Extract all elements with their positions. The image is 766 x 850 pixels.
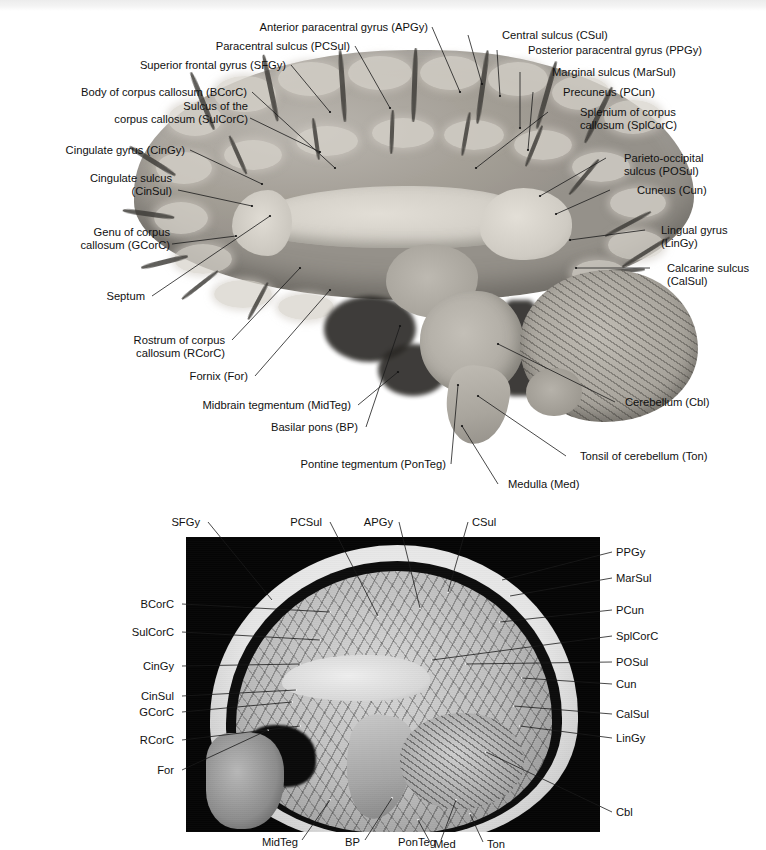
label-panel-a-BP: Basilar pons (BP)	[233, 421, 358, 434]
leader-Cbl	[600, 806, 612, 812]
leader-SFGy	[208, 522, 220, 537]
leader-CalSul	[600, 713, 612, 714]
label-panel-a-LinGy: Lingual gyrus (LinGy)	[661, 224, 766, 249]
label-panel-a-BCorC: Body of corpus callosum (BCorC)	[47, 86, 247, 99]
leader-PCun	[600, 610, 612, 611]
label-panel-b-MidTeg: MidTeg	[240, 836, 298, 849]
label-panel-a-CinSul: Cingulate sulcus (CinSul)	[22, 172, 172, 197]
label-panel-b-APGy: APGy	[345, 516, 393, 529]
label-panel-b-Ton: Ton	[487, 838, 527, 850]
label-panel-b-PPGy: PPGy	[616, 546, 666, 559]
label-panel-b-POSul: POSul	[616, 656, 668, 669]
label-panel-a-Septum: Septum	[45, 290, 145, 303]
label-panel-b-CalSul: CalSul	[616, 708, 668, 721]
label-panel-a-Ton: Tonsil of cerebellum (Ton)	[580, 450, 750, 463]
label-panel-a-PPGy: Posterior paracentral gyrus (PPGy)	[528, 44, 718, 57]
label-panel-a-For: Fornix (For)	[143, 370, 248, 383]
label-panel-b-SFGy: SFGy	[150, 516, 200, 529]
label-panel-b-SplCorC: SplCorC	[616, 630, 678, 643]
label-panel-b-RCorC: RCorC	[120, 734, 174, 747]
label-panel-a-PonTeg: Pontine tegmentum (PonTeg)	[268, 458, 446, 471]
label-panel-a-SulCorC: Sulcus of the corpus callosum (SulCorC)	[38, 100, 248, 125]
leader-PPGy	[600, 552, 612, 555]
leader-MidTeg	[302, 832, 308, 840]
label-panel-b-LinGy: LinGy	[616, 732, 666, 745]
anatomy-figure: Anterior paracentral gyrus (APGy)Paracen…	[0, 0, 766, 850]
label-panel-b-PCun: PCun	[616, 604, 666, 617]
leader-LinGy	[600, 736, 612, 738]
label-panel-a-CalSul: Calcarine sulcus (CalSul)	[667, 262, 766, 287]
mri-noise-overlay	[186, 537, 600, 832]
splenium-region	[480, 188, 572, 260]
label-panel-a-CSul: Central sulcus (CSul)	[502, 29, 642, 42]
label-panel-b-Cun: Cun	[616, 678, 660, 691]
label-panel-a-POSul: Parieto-occipital sulcus (POSul)	[624, 152, 764, 177]
label-panel-b-Med: Med	[434, 838, 474, 850]
label-panel-b-MarSul: MarSul	[616, 572, 674, 585]
leader-MarSul	[600, 578, 612, 580]
label-panel-b-CinSul: CinSul	[122, 690, 174, 703]
label-panel-a-Cbl: Cerebellum (Cbl)	[625, 396, 745, 409]
label-panel-a-SplCorC: Splenium of corpus callosum (SplCorC)	[580, 106, 740, 131]
label-panel-b-BP: BP	[334, 836, 360, 849]
cerebellar-tonsil-region	[526, 368, 582, 416]
leader-PCSul	[330, 522, 338, 537]
label-panel-b-Cbl: Cbl	[616, 806, 656, 819]
leader-Cun	[600, 683, 612, 684]
leader-Ton	[478, 832, 483, 842]
label-panel-a-PCSul: Paracentral sulcus (PCSul)	[185, 40, 350, 53]
label-panel-a-MarSul: Marginal sulcus (MarSul)	[552, 66, 702, 79]
label-panel-b-For: For	[140, 764, 174, 777]
label-panel-b-PonTeg: PonTeg	[380, 836, 436, 849]
label-panel-b-CSul: CSul	[472, 516, 518, 529]
label-panel-b-PCSul: PCSul	[272, 516, 322, 529]
label-panel-a-RCorC: Rostrum of corpus callosum (RCorC)	[65, 334, 225, 359]
label-panel-b-CinGy: CinGy	[124, 660, 174, 673]
label-panel-a-MidTeg: Midbrain tegmentum (MidTeg)	[166, 399, 351, 412]
leader-CSul	[464, 522, 468, 537]
scan-top-strip	[0, 0, 766, 11]
label-panel-b-BCorC: BCorC	[122, 598, 174, 611]
leader-SplCorC	[600, 636, 612, 638]
leader-BP	[365, 832, 370, 840]
label-panel-b-SulCorC: SulCorC	[112, 626, 174, 639]
label-panel-a-APGy: Anterior paracentral gyrus (APGy)	[228, 21, 428, 34]
label-panel-a-CinGy: Cingulate gyrus (CinGy)	[25, 144, 185, 157]
label-panel-b-GCorC: GCorC	[118, 706, 174, 719]
label-panel-a-PCun: Precuneus (PCun)	[563, 86, 683, 99]
label-panel-a-SFGy: Superior frontal gyrus (SFGy)	[106, 59, 286, 72]
sagittal-mri-scan	[186, 537, 600, 832]
label-panel-a-Cun: Cuneus (Cun)	[637, 184, 747, 197]
label-panel-a-Med: Medulla (Med)	[508, 478, 618, 491]
label-panel-a-GCorC: Genu of corpus callosum (GCorC)	[10, 226, 170, 251]
leader-APGy	[399, 522, 403, 537]
